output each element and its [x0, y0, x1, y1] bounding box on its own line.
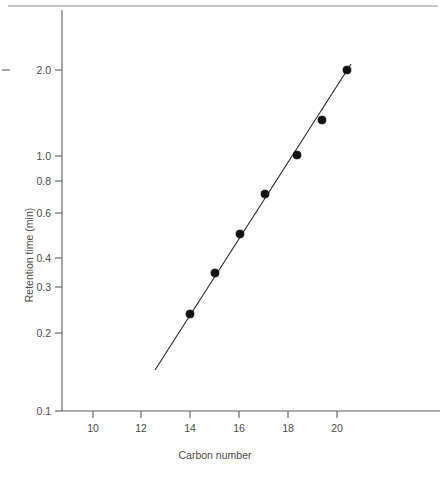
- y-tick-0.6: 0.6: [36, 207, 62, 219]
- y-tick-label: 0.3: [36, 281, 51, 293]
- x-axis-title: Carbon number: [179, 449, 252, 461]
- x-tick-18: 18: [282, 411, 294, 434]
- x-tick-label: 18: [282, 422, 294, 434]
- y-tick-2.0: 2.0: [36, 64, 62, 76]
- chart-figure: 2.0 1.0 0.8 0.6 0.4 0.3: [0, 0, 444, 477]
- data-point: [318, 116, 326, 124]
- data-point: [186, 310, 194, 318]
- y-axis-title: Retention time (min): [23, 208, 35, 303]
- retention-time-vs-carbon-number-chart: 2.0 1.0 0.8 0.6 0.4 0.3: [0, 0, 444, 477]
- x-axis-ticks: 10 12 14 16 18 20: [87, 411, 343, 434]
- x-tick-12: 12: [135, 411, 147, 434]
- y-tick-label: 0.2: [36, 327, 51, 339]
- x-tick-label: 10: [87, 422, 99, 434]
- y-axis-ticks: 2.0 1.0 0.8 0.6 0.4 0.3: [36, 64, 62, 417]
- y-tick-label: 0.6: [36, 207, 51, 219]
- y-tick-0.4: 0.4: [36, 252, 62, 264]
- axes: [62, 10, 440, 411]
- y-tick-0.8: 0.8: [36, 175, 62, 187]
- x-tick-label: 20: [331, 422, 343, 434]
- data-point: [236, 230, 244, 238]
- y-tick-label: 0.8: [36, 175, 51, 187]
- fit-line: [155, 64, 351, 370]
- x-tick-label: 14: [184, 422, 196, 434]
- x-tick-16: 16: [233, 411, 245, 434]
- y-tick-label: 1.0: [36, 150, 51, 162]
- data-point: [293, 151, 301, 159]
- y-tick-0.2: 0.2: [36, 327, 62, 339]
- y-tick-label: 0.1: [36, 405, 51, 417]
- y-tick-0.1: 0.1: [36, 405, 62, 417]
- x-tick-label: 16: [233, 422, 245, 434]
- x-tick-label: 12: [135, 422, 147, 434]
- data-point: [343, 66, 351, 74]
- x-tick-10: 10: [87, 411, 99, 434]
- y-tick-0.3: 0.3: [36, 281, 62, 293]
- data-point: [211, 269, 219, 277]
- x-tick-20: 20: [331, 411, 343, 434]
- y-tick-label: 0.4: [36, 252, 51, 264]
- y-tick-label: 2.0: [36, 64, 51, 76]
- y-tick-1.0: 1.0: [36, 150, 62, 162]
- x-tick-14: 14: [184, 411, 196, 434]
- data-series: [186, 66, 351, 318]
- data-point: [261, 190, 269, 198]
